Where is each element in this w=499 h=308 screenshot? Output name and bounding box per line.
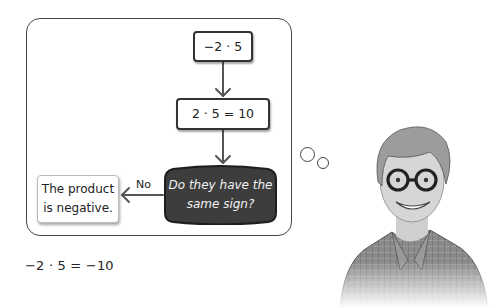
decision-text: Do they have the same sign? [163, 165, 278, 225]
decision-box: Do they have the same sign? [163, 165, 278, 225]
step-box-text: 2 · 5 = 10 [192, 104, 254, 123]
decision-line-2: same sign? [169, 195, 273, 214]
thought-bubble-large-icon [300, 147, 315, 162]
decision-line-1: Do they have the [169, 176, 273, 195]
result-line-1: The product [42, 180, 114, 199]
start-box: −2 · 5 [193, 31, 253, 62]
result-line-2: is negative. [42, 199, 114, 218]
step-box: 2 · 5 = 10 [176, 98, 270, 130]
branch-label-no: No [136, 178, 151, 191]
start-box-text: −2 · 5 [204, 37, 242, 56]
result-equation: −2 · 5 = −10 [25, 258, 114, 273]
thought-bubble-small-icon [317, 157, 329, 169]
student-illustration [330, 120, 499, 308]
result-box: The product is negative. [37, 175, 119, 223]
